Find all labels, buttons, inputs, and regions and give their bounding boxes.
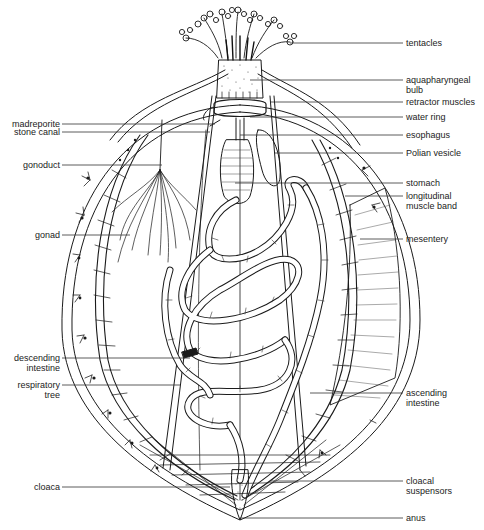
label-text-line2: muscle band bbox=[406, 201, 457, 211]
label-text: retractor muscles bbox=[406, 97, 475, 107]
label-gonoduct: gonoduct bbox=[23, 160, 60, 170]
gonad-shape bbox=[112, 170, 196, 262]
intestine-loops bbox=[165, 180, 324, 495]
label-text: descending bbox=[14, 353, 60, 363]
sea-cucumber-anatomy-diagram: tentaclesaquapharyngealbulbretractor mus… bbox=[0, 0, 484, 530]
retractor-muscle-right bbox=[262, 70, 360, 145]
gonoduct-shape bbox=[160, 120, 162, 170]
label-gonad: gonad bbox=[35, 230, 60, 240]
label-tentacles: tentacles bbox=[406, 38, 442, 48]
label-text-line2: intestine bbox=[406, 398, 447, 408]
label-text: longitudinal bbox=[406, 191, 457, 201]
label-text: Polian vesicle bbox=[406, 148, 461, 158]
label-aquapharyngeal-bulb: aquapharyngealbulb bbox=[406, 75, 471, 95]
stomach-shape bbox=[220, 140, 253, 204]
label-water-ring: water ring bbox=[406, 112, 446, 122]
label-text: stomach bbox=[406, 178, 440, 188]
label-text: stone canal bbox=[14, 127, 60, 137]
label-text: cloaca bbox=[34, 482, 60, 492]
label-text: respiratory bbox=[17, 380, 60, 390]
label-text-line2: tree bbox=[17, 390, 60, 400]
label-text: ascending bbox=[406, 388, 447, 398]
longitudinal-muscle-band-shape bbox=[330, 188, 400, 405]
label-cloaca: cloaca bbox=[34, 482, 60, 492]
label-text: anus bbox=[406, 513, 426, 523]
label-text-line2: suspensors bbox=[406, 486, 452, 496]
label-ascending-intestine: ascendingintestine bbox=[406, 388, 447, 408]
label-anus: anus bbox=[406, 513, 426, 523]
label-cloacal-suspensors: cloacalsuspensors bbox=[406, 476, 452, 496]
label-mesentery: mesentery bbox=[406, 234, 448, 244]
label-text: mesentery bbox=[406, 234, 448, 244]
label-text-line2: bulb bbox=[406, 85, 471, 95]
label-polian-vesicle: Polian vesicle bbox=[406, 148, 461, 158]
right-respiratory-tree-trunk bbox=[245, 140, 357, 498]
label-text: water ring bbox=[406, 112, 446, 122]
label-text: aquapharyngeal bbox=[406, 75, 471, 85]
label-text: tentacles bbox=[406, 38, 442, 48]
label-text-line2: intestine bbox=[14, 363, 60, 373]
label-stone-canal: stone canal bbox=[14, 127, 60, 137]
label-text: gonad bbox=[35, 230, 60, 240]
label-text: gonoduct bbox=[23, 160, 60, 170]
label-text: esophagus bbox=[406, 130, 450, 140]
label-text: cloacal bbox=[406, 476, 452, 486]
label-esophagus: esophagus bbox=[406, 130, 450, 140]
label-stomach: stomach bbox=[406, 178, 440, 188]
label-descending-intestine: descendingintestine bbox=[14, 353, 60, 373]
label-longitudinal-muscle-band: longitudinalmuscle band bbox=[406, 191, 457, 211]
label-respiratory-tree: respiratorytree bbox=[17, 380, 60, 400]
label-retractor-muscles: retractor muscles bbox=[406, 97, 475, 107]
